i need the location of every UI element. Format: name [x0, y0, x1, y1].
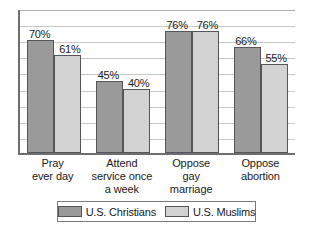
bar-value-label: 55%	[265, 52, 286, 64]
legend-swatch-icon	[165, 206, 189, 217]
bar-value-label: 70%	[29, 28, 50, 40]
bar-group-pray-every-day: 70% 61%	[20, 10, 89, 153]
bar-value-label: 76%	[166, 19, 187, 31]
plot-area: 70% 61% 45% 40%	[18, 10, 295, 155]
bar-value-label: 76%	[197, 19, 218, 31]
bar-christians-pray: 70%	[27, 40, 54, 153]
category-label-attend-service: Attend service once a week	[87, 157, 156, 196]
bar-muslims-gay-marriage: 76%	[192, 31, 219, 153]
bar-group-oppose-abortion: 66% 55%	[226, 10, 295, 153]
legend-label: U.S. Muslims	[193, 206, 255, 218]
legend-item-christians: U.S. Christians	[58, 206, 156, 218]
bar-value-label: 66%	[235, 35, 256, 47]
bar-christians-abortion: 66%	[234, 47, 261, 153]
bar-muslims-abortion: 55%	[261, 64, 288, 153]
legend-label: U.S. Christians	[86, 206, 156, 218]
category-label-pray: Pray ever day	[18, 157, 87, 196]
bar-chart: 70% 61% 45% 40%	[0, 0, 312, 233]
bar-muslims-pray: 61%	[54, 55, 81, 153]
legend-item-muslims: U.S. Muslims	[165, 206, 255, 218]
legend-swatch-icon	[58, 206, 82, 217]
bar-groups: 70% 61% 45% 40%	[20, 10, 295, 153]
bar-group-attend-service: 45% 40%	[89, 10, 158, 153]
category-label-abortion: Oppose abortion	[226, 157, 295, 196]
category-label-gay-marriage: Oppose gay marriage	[157, 157, 226, 196]
bar-muslims-attend: 40%	[123, 89, 150, 153]
bar-value-label: 40%	[128, 77, 149, 89]
bar-christians-gay-marriage: 76%	[165, 31, 192, 153]
bar-christians-attend: 45%	[96, 81, 123, 154]
bar-value-label: 61%	[59, 43, 80, 55]
bar-group-oppose-gay-marriage: 76% 76%	[158, 10, 227, 153]
bar-value-label: 45%	[98, 69, 119, 81]
chart-legend: U.S. Christians U.S. Muslims	[57, 201, 256, 222]
category-axis-labels: Pray ever day Attend service once a week…	[18, 157, 295, 196]
